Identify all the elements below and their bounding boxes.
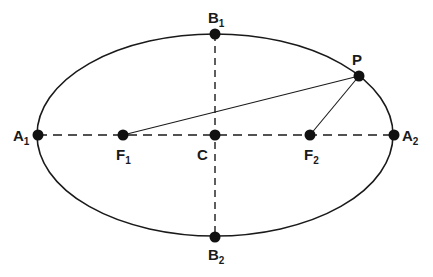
- ellipse-diagram: A1 A2 B1 B2 F1 F2 C P: [0, 0, 433, 277]
- point-a1: [33, 130, 44, 141]
- point-a2: [389, 130, 400, 141]
- label-f2: F2: [304, 146, 319, 166]
- label-p: P: [352, 51, 362, 68]
- label-c: C: [197, 146, 208, 163]
- label-f1: F1: [116, 146, 131, 166]
- point-f1: [118, 130, 129, 141]
- point-f2: [305, 130, 316, 141]
- focal-radius-1: [123, 76, 359, 135]
- label-b1: B1: [208, 9, 225, 29]
- point-c: [210, 130, 221, 141]
- point-b2: [210, 232, 221, 243]
- label-a1: A1: [13, 127, 30, 147]
- point-p: [354, 71, 365, 82]
- point-b1: [210, 29, 221, 40]
- label-b2: B2: [208, 246, 225, 266]
- focal-radius-2: [310, 76, 359, 135]
- label-a2: A2: [402, 127, 419, 147]
